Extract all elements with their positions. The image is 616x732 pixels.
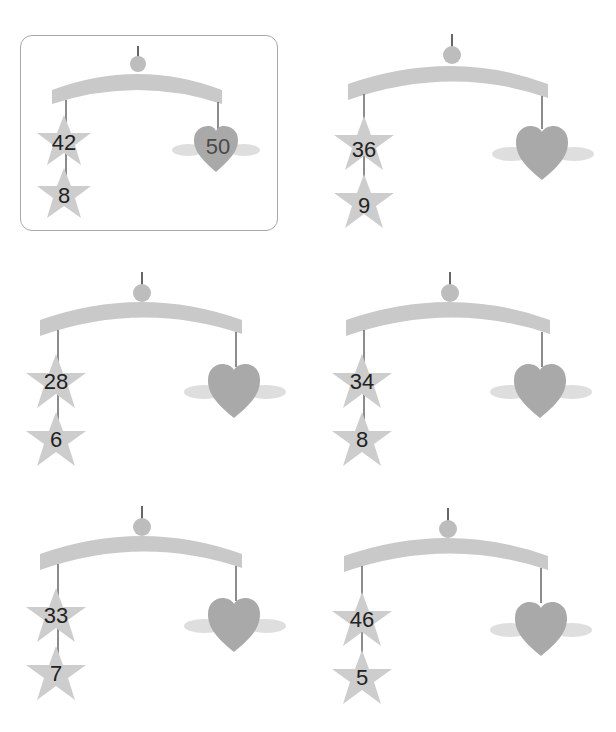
mobile-graphic <box>308 468 608 708</box>
mobile-problem: 28 6 <box>4 232 304 462</box>
heart-icon <box>208 598 260 652</box>
top-star-number: 33 <box>44 605 68 627</box>
top-star-number: 42 <box>52 132 76 154</box>
bottom-star-number: 8 <box>356 429 368 451</box>
bottom-star-number: 7 <box>50 663 62 685</box>
mobile-problem: 34 8 <box>310 232 610 462</box>
bottom-star-number: 6 <box>50 429 62 451</box>
mobile-example: 42 8 50 <box>0 0 300 230</box>
bottom-star-number: 5 <box>356 667 368 689</box>
bottom-star-number: 8 <box>58 185 70 207</box>
mobile-problem: 36 9 <box>312 0 612 224</box>
top-star-number: 46 <box>350 609 374 631</box>
bottom-star-number: 9 <box>358 195 370 217</box>
heart-icon <box>514 364 566 418</box>
heart-icon <box>515 602 567 656</box>
mobile-problem: 46 5 <box>308 468 608 698</box>
heart-number: 50 <box>206 136 230 158</box>
top-star-number: 28 <box>44 371 68 393</box>
top-star-number: 34 <box>350 371 374 393</box>
mobile-graphic <box>0 0 300 240</box>
top-star-number: 36 <box>352 139 376 161</box>
heart-icon <box>208 364 260 418</box>
heart-icon <box>516 126 568 180</box>
mobile-problem: 33 7 <box>4 466 304 696</box>
